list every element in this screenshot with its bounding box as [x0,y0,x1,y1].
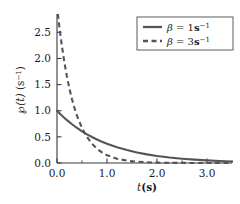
legend[interactable]: β = 1s−1 β = 3s−1 [137,17,233,50]
y-axis-title-arg: (t) [14,93,26,105]
y-axis-title-unit-close: ) [14,66,26,70]
y-tick-label: 0.5 [34,131,51,143]
y-axis-title-unit-base: (s [14,81,26,91]
y-tick-label: 2.5 [34,26,51,38]
x-axis-title: t(s) [137,181,157,193]
y-axis-title-symbol: ℘ [14,106,27,114]
y-tick-label: 0.0 [34,157,51,169]
x-tick-label: 0.0 [49,167,66,179]
x-tick-label: 2.0 [149,167,166,179]
x-tick-label: 1.0 [99,167,116,179]
y-tick-label: 1.0 [34,104,51,116]
x-tick-label: 3.0 [199,167,216,179]
y-tick-label: 2.0 [34,52,51,64]
y-axis-title-unit-exp: −1 [15,70,23,80]
y-tick-label: 1.5 [34,78,51,90]
plot-svg: 0.01.02.03.0 0.00.51.01.52.02.5 t(s) ℘(t… [0,0,240,204]
exponential-decay-chart: 0.01.02.03.0 0.00.51.01.52.02.5 t(s) ℘(t… [0,0,240,204]
x-axis-title-unit: (s) [141,181,157,193]
